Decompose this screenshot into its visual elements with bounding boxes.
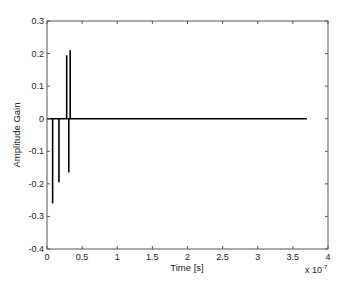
x-tick-label: 1 [115,252,120,262]
x-axis-label: Time [s] [170,262,203,273]
x-tick-label: 0 [44,252,49,262]
x-tick-label: 3 [255,252,260,262]
y-tick-label: 0.1 [31,81,44,91]
x-multiplier-base: x 10 [305,265,322,275]
y-tick-label: -0.1 [28,146,44,156]
x-multiplier-exponent: -7 [322,264,328,270]
y-tick-label: 0 [39,114,44,124]
axes: 00.511.522.533.540.30.20.10-0.1-0.2-0.3-… [28,16,330,262]
x-tick-label: 4 [325,252,330,262]
x-multiplier-label: x 10-7 [305,264,328,275]
axes-box [47,21,328,249]
plot-area [47,50,307,203]
x-tick-label: 2.5 [216,252,229,262]
y-tick-label: 0.2 [31,49,44,59]
x-tick-label: 0.5 [76,252,89,262]
y-tick-label: -0.3 [28,211,44,221]
y-axis-label: Amplitude Gain [11,103,22,168]
y-tick-label: 0.3 [31,16,44,26]
y-tick-label: -0.4 [28,244,44,254]
x-tick-label: 2 [185,252,190,262]
y-tick-label: -0.2 [28,179,44,189]
x-tick-label: 3.5 [287,252,300,262]
chart: 00.511.522.533.540.30.20.10-0.1-0.2-0.3-… [0,0,345,290]
x-tick-label: 1.5 [146,252,159,262]
